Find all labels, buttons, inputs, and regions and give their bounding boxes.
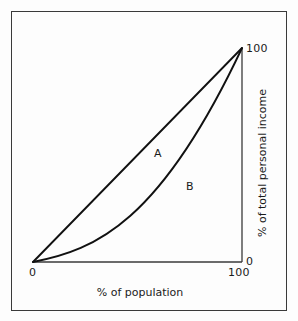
x-axis-min-label: 0 <box>29 266 36 279</box>
y-axis-title: % of total personal income <box>256 89 269 237</box>
line-of-equality <box>33 48 242 262</box>
lorenz-curve-figure: 100 0 0 100 % of population % of total p… <box>0 0 298 321</box>
region-b-label: B <box>186 180 194 193</box>
y-axis-max-label: 100 <box>246 42 268 55</box>
x-axis-max-label: 100 <box>228 266 250 279</box>
x-axis-title: % of population <box>0 286 280 299</box>
region-a-label: A <box>154 147 162 160</box>
